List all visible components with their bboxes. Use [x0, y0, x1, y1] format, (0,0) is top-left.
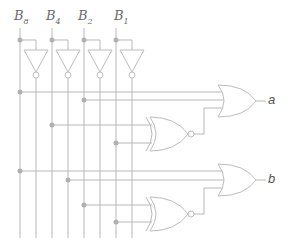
input-label-b1: B1 — [114, 9, 129, 26]
inverter-b4 — [56, 50, 80, 78]
xnor-gate-a — [146, 117, 194, 151]
input-label-b8: B8 — [14, 9, 29, 26]
junction-dot — [82, 38, 87, 43]
input-label-b2: B2 — [78, 9, 93, 26]
or-gate-a — [218, 85, 256, 117]
inverter-b8 — [24, 50, 48, 78]
inverter-b1 — [120, 50, 144, 78]
or-gate-b — [218, 164, 256, 196]
junction-dot — [50, 38, 55, 43]
junction-dot — [114, 38, 119, 43]
junction-dot — [18, 38, 23, 43]
circuit-wiring — [0, 0, 291, 252]
xnor-gate-b — [146, 197, 194, 231]
output-label-a: a — [268, 93, 275, 106]
input-label-b4: B4 — [46, 9, 61, 26]
logic-circuit-diagram: B8 B4 B2 B1 — [0, 0, 291, 252]
inverter-b2 — [88, 50, 112, 78]
output-label-b: b — [268, 172, 275, 185]
